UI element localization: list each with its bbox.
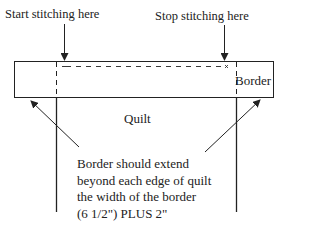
right-extension-arrow [205,100,260,152]
note-line: the width of the border [77,189,211,206]
border-extension-note: Border should extend beyond each edge of… [77,156,211,222]
note-line: Border should extend [77,156,211,173]
border-label: Border [235,74,271,87]
stitch-stop-mark [225,65,228,68]
note-line: (6 1/2") PLUS 2" [77,206,211,223]
note-line: beyond each edge of quilt [77,173,211,190]
quilt-label: Quilt [124,112,151,125]
left-extension-arrow [31,101,79,147]
